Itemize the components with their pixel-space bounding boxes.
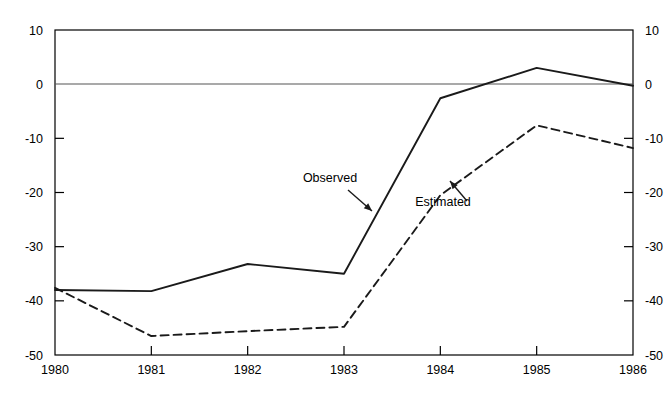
right-tick-label: -40 [645,294,663,308]
left-tick-label: 10 [29,24,43,38]
right-tick-label: -30 [645,240,663,254]
left-tick-label: -50 [25,349,43,363]
line-chart: 100-10-20-30-40-50 100-10-20-30-40-50 19… [0,0,670,393]
right-tick-label: 0 [645,78,652,92]
left-tick-label: -20 [25,186,43,200]
right-tick-label: -50 [645,349,663,363]
x-tick-label: 1983 [330,363,358,377]
left-tick-label: -10 [25,132,43,146]
chart-background [0,0,670,393]
x-tick-label: 1985 [523,363,551,377]
x-tick-label: 1981 [137,363,165,377]
x-tick-label: 1984 [426,363,454,377]
left-tick-label: 0 [36,78,43,92]
left-tick-label: -30 [25,240,43,254]
left-tick-label: -40 [25,294,43,308]
annotation-label-estimated: Estimated [415,195,471,209]
x-tick-label: 1982 [234,363,262,377]
right-tick-label: 10 [645,24,659,38]
chart-container: 100-10-20-30-40-50 100-10-20-30-40-50 19… [0,0,670,393]
x-tick-label: 1986 [619,363,647,377]
right-tick-label: -10 [645,132,663,146]
x-tick-label: 1980 [41,363,69,377]
right-tick-label: -20 [645,186,663,200]
annotation-label-observed: Observed [303,171,357,185]
